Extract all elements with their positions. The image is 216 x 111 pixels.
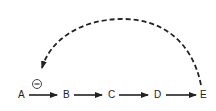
node-e: E bbox=[200, 90, 207, 100]
node-a: A bbox=[18, 90, 25, 100]
node-c: C bbox=[108, 90, 115, 100]
node-b: B bbox=[63, 90, 70, 100]
node-d: D bbox=[154, 90, 161, 100]
feedback-arc-e-a bbox=[42, 19, 201, 85]
